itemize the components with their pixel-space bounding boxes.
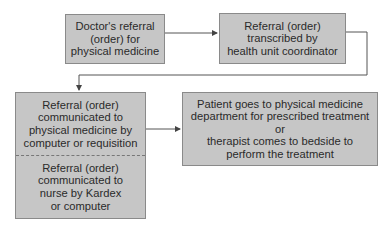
node-transcribed: Referral (order) transcribed by health u…: [219, 13, 346, 64]
node-text: or: [275, 123, 285, 136]
node-text: communicated to: [38, 111, 123, 124]
node-text: communicated to: [38, 174, 123, 187]
section-physical-medicine: Referral (order) communicated to physica…: [16, 93, 145, 155]
node-text: nurse by Kardex: [40, 187, 121, 200]
section-nurse: Referral (order) communicated to nurse b…: [16, 156, 145, 218]
node-text: computer or requisition: [24, 137, 138, 150]
node-text: physical medicine by: [29, 124, 132, 137]
node-text: or computer: [51, 200, 111, 213]
node-text: department for prescribed treatment: [191, 110, 369, 123]
node-text: perform the treatment: [226, 148, 334, 161]
node-text: Referral (order): [42, 99, 118, 112]
node-doctor-referral: Doctor's referral (order) for physical m…: [65, 14, 165, 64]
node-treatment: Patient goes to physical medicine depart…: [182, 92, 378, 166]
node-communicated: Referral (order) communicated to physica…: [15, 92, 146, 219]
node-text: Referral (order): [244, 20, 320, 33]
node-text: transcribed by: [247, 32, 317, 45]
node-text: therapist comes to bedside to: [207, 135, 353, 148]
node-text: health unit coordinator: [227, 45, 338, 58]
node-text: Patient goes to physical medicine: [197, 98, 363, 111]
node-text: physical medicine: [71, 45, 159, 58]
node-text: Doctor's referral: [75, 20, 154, 33]
node-text: (order) for: [90, 33, 140, 46]
node-text: Referral (order): [42, 162, 118, 175]
